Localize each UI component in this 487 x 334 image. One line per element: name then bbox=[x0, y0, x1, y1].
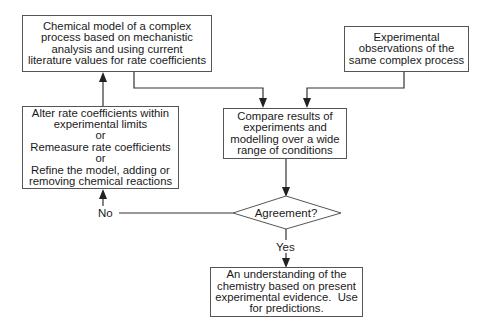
model-line: process based on mechanistic bbox=[41, 32, 193, 43]
decision-label: Agreement? bbox=[232, 207, 340, 219]
yes-label: Yes bbox=[276, 241, 295, 253]
experiments-line: same complex process bbox=[349, 55, 465, 66]
compare-line: experiments and bbox=[243, 122, 327, 133]
compare-line: range of conditions bbox=[237, 145, 332, 156]
edge-experiments-to-compare bbox=[307, 72, 404, 106]
experiments-box: Experimental observations of the same co… bbox=[344, 26, 469, 72]
no-label: No bbox=[98, 207, 113, 219]
alter-line: removing chemical reactions bbox=[29, 176, 172, 187]
model-line: literature values for rate coefficients bbox=[28, 55, 206, 66]
understanding-line: An understanding of the bbox=[227, 269, 347, 280]
edge-model-to-compare bbox=[134, 71, 263, 106]
understanding-box: An understanding of the chemistry based … bbox=[210, 267, 363, 317]
compare-box: Compare results of experiments and model… bbox=[223, 108, 347, 159]
model-box: Chemical model of a complex process base… bbox=[22, 15, 212, 72]
alter-line: or bbox=[95, 153, 105, 164]
alter-box: Alter rate coefficients within experimen… bbox=[22, 106, 179, 189]
experiments-line: observations of the bbox=[359, 43, 454, 54]
understanding-line: for predictions. bbox=[249, 303, 323, 314]
flowchart-canvas: Chemical model of a complex process base… bbox=[0, 0, 487, 334]
